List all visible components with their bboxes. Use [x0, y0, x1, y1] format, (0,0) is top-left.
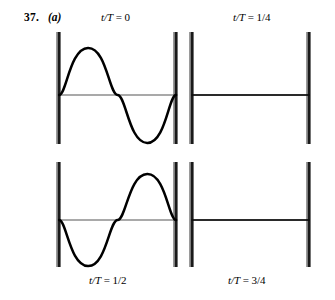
panel-t-over-T-1-4	[188, 30, 318, 148]
panel-t-over-T-3-4	[188, 160, 318, 272]
right-wall-t1-4	[306, 32, 311, 144]
caption-eq-t1-2: =	[104, 274, 110, 286]
problem-number: 37.	[24, 11, 39, 23]
caption-var-t1-4: t/T	[233, 11, 245, 23]
left-wall-t1-4	[189, 32, 194, 144]
caption-var-t0: t/T	[101, 11, 113, 23]
panel-t-over-T-0	[55, 30, 185, 148]
caption-var-t1-2: t/T	[89, 274, 101, 286]
caption-eq-t3-4: =	[243, 274, 249, 286]
caption-eq-t1-4: =	[248, 11, 254, 23]
problem-part: (a)	[48, 11, 61, 23]
right-wall-t3-4	[306, 162, 311, 267]
caption-eq-t0: =	[116, 11, 122, 23]
caption-var-t3-4: t/T	[228, 274, 240, 286]
left-wall-t1-2	[56, 162, 61, 267]
right-wall-t0	[173, 32, 178, 144]
caption-t-over-T-0: t/T=0	[101, 11, 130, 23]
left-wall-t3-4	[189, 162, 194, 267]
caption-t-over-T-3-4: t/T=3/4	[228, 274, 266, 286]
left-wall-t0	[56, 32, 61, 144]
caption-t-over-T-1-4: t/T=1/4	[233, 11, 271, 23]
caption-value-t0: 0	[124, 11, 130, 23]
panel-t-over-T-1-2	[55, 160, 185, 272]
caption-value-t1-2: 1/2	[112, 274, 126, 286]
caption-value-t1-4: 1/4	[256, 11, 270, 23]
standing-wave-figure: 37. (a)	[0, 0, 335, 300]
caption-value-t3-4: 3/4	[251, 274, 265, 286]
caption-t-over-T-1-2: t/T=1/2	[89, 274, 127, 286]
right-wall-t1-2	[173, 162, 178, 267]
